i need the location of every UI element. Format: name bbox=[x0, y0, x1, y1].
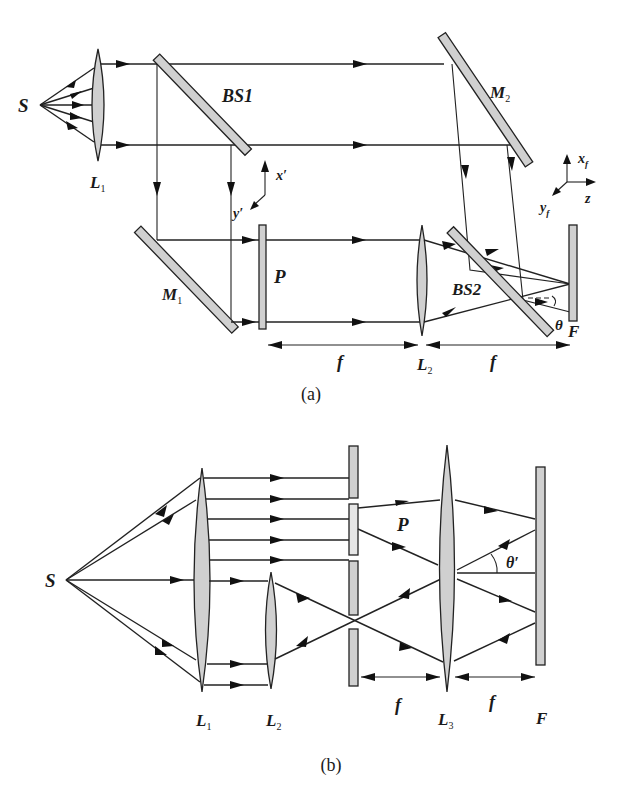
lens-l1-a bbox=[92, 49, 104, 161]
panel-b: S L1 L2 P L3 F f f θ′ (b) bbox=[45, 445, 548, 776]
panel-a: S L1 BS1 M2 M1 P BS2 F L2 f f θ x′ y′ xf… bbox=[18, 33, 596, 405]
label-l1-b: L1 bbox=[195, 711, 211, 732]
optical-setup-figure: S L1 BS1 M2 M1 P BS2 F L2 f f θ x′ y′ xf… bbox=[0, 0, 622, 800]
axes-focal bbox=[552, 154, 596, 196]
label-f-dist2-b: f bbox=[489, 692, 497, 712]
lens-l2-a bbox=[417, 225, 427, 336]
label-y-prime: y′ bbox=[231, 206, 243, 221]
lens-l1-b bbox=[194, 468, 210, 692]
label-bs2: BS2 bbox=[451, 280, 482, 299]
label-f-a: F bbox=[567, 322, 580, 341]
label-s-a: S bbox=[18, 95, 29, 116]
label-f-dist1-b: f bbox=[395, 695, 403, 715]
label-z: z bbox=[584, 191, 591, 206]
mirror-m2 bbox=[438, 33, 533, 167]
object-plane-p-a bbox=[259, 225, 266, 329]
label-l3: L3 bbox=[437, 710, 453, 731]
label-p-b: P bbox=[396, 514, 409, 535]
label-l1-a: L1 bbox=[89, 173, 105, 194]
label-m2: M2 bbox=[489, 83, 510, 104]
label-s-b: S bbox=[45, 570, 56, 591]
label-l2-a: L2 bbox=[416, 355, 432, 376]
slit-plate-bottom bbox=[349, 629, 358, 686]
label-yf: yf bbox=[538, 200, 550, 218]
mirror-m1 bbox=[134, 226, 238, 333]
object-plane-p-b bbox=[349, 504, 358, 555]
label-theta: θ bbox=[555, 317, 563, 333]
label-theta-prime: θ′ bbox=[506, 554, 519, 571]
focal-plane-f-b bbox=[536, 467, 545, 665]
slit-plate-middle bbox=[349, 561, 358, 615]
label-f-b: F bbox=[535, 709, 548, 728]
label-f-dist2-a: f bbox=[490, 352, 498, 372]
label-bs1: BS1 bbox=[221, 86, 253, 106]
label-m1: M1 bbox=[161, 285, 182, 306]
caption-b: (b) bbox=[321, 755, 342, 776]
label-f-dist1-a: f bbox=[337, 352, 345, 372]
lens-l2-b bbox=[266, 572, 277, 689]
caption-a: (a) bbox=[301, 384, 321, 405]
label-p-a: P bbox=[273, 266, 286, 287]
source-rays-a bbox=[40, 68, 94, 142]
label-xf: xf bbox=[577, 151, 589, 169]
slit-plate-top bbox=[349, 446, 358, 498]
label-l2-b: L2 bbox=[265, 711, 281, 732]
label-x-prime: x′ bbox=[275, 168, 287, 183]
lens-l3 bbox=[440, 445, 455, 692]
focal-plane-f-a bbox=[569, 225, 577, 321]
axes-prime bbox=[250, 160, 269, 210]
